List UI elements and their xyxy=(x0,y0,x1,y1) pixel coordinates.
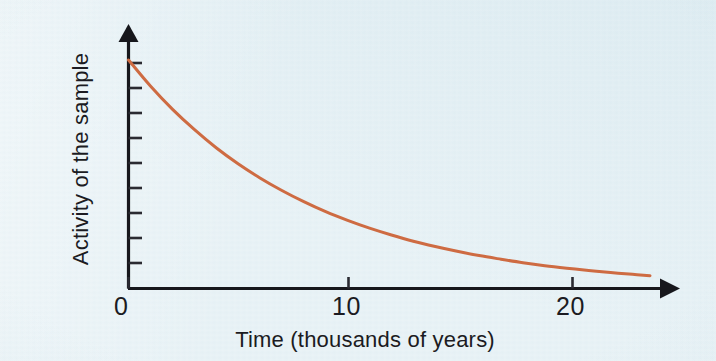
x-tick-label-10: 10 xyxy=(332,292,361,321)
y-axis-title: Activity of the sample xyxy=(68,53,94,265)
x-tick-label-0: 0 xyxy=(114,292,128,321)
decay-curve-line xyxy=(129,60,651,276)
y-axis-title-container: Activity of the sample xyxy=(63,28,99,290)
y-axis-arrow-icon xyxy=(119,24,139,42)
x-axis-title: Time (thousands of years) xyxy=(0,327,716,353)
x-tick-label-20: 20 xyxy=(556,292,585,321)
x-axis-arrow-icon xyxy=(660,279,680,299)
decay-curve-figure: 0 10 20 Time (thousands of years) Activi… xyxy=(0,0,716,361)
